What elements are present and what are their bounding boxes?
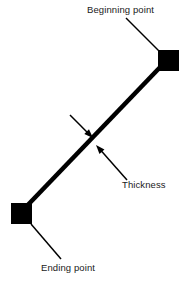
beginning-point-label: Beginning point bbox=[87, 4, 154, 15]
ending-point-label: Ending point bbox=[41, 262, 95, 273]
beginning-point-square-handle[interactable] bbox=[158, 50, 179, 71]
ending-point-square-handle[interactable] bbox=[11, 203, 32, 224]
line-thickness-diagram-graphic bbox=[0, 0, 189, 290]
thickness-label: Thickness bbox=[122, 179, 166, 190]
diagram-background bbox=[0, 0, 189, 290]
diagram-canvas: Beginning point Thickness Ending point bbox=[0, 0, 189, 290]
